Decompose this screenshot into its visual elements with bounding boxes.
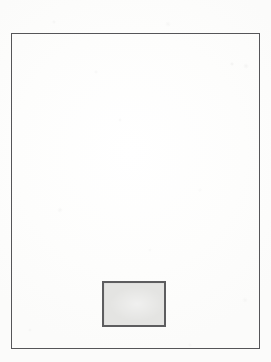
shaded-rectangle-texture [104, 283, 164, 325]
figure-canvas [0, 0, 271, 362]
shaded-rectangle [102, 281, 166, 327]
outer-frame-rectangle [11, 33, 260, 349]
